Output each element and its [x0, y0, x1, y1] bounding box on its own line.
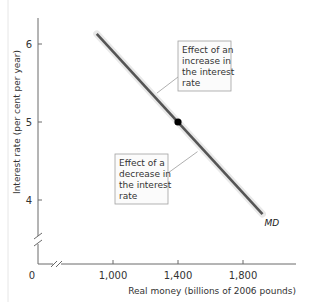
annotation-text-increase: Effect of an: [182, 45, 234, 55]
origin-label: 0: [29, 270, 35, 281]
y-axis-title: Interest rate (per cent per year): [12, 50, 22, 194]
annotation-text-decrease: rate: [119, 191, 138, 201]
y-tick-label: 5: [26, 117, 32, 128]
annotation-text-decrease: Effect of a: [119, 158, 165, 168]
annotation-text-increase: rate: [182, 78, 201, 88]
x-axis-title: Real money (billions of 2006 pounds): [128, 286, 296, 296]
annotation-text-increase: the interest: [182, 67, 235, 77]
y-tick-label: 4: [26, 195, 32, 206]
money-demand-chart: 1,0001,4001,800456 MD Effect of anincrea…: [0, 0, 310, 302]
x-tick-label: 1,800: [229, 270, 258, 281]
y-tick-label: 6: [26, 39, 32, 50]
annotation-text-decrease: decrease in: [119, 169, 171, 179]
x-tick-label: 1,400: [164, 270, 193, 281]
annotation-text-increase: increase in: [182, 56, 231, 66]
annotation-text-decrease: the interest: [119, 180, 172, 190]
x-tick-label: 1,000: [99, 270, 128, 281]
annotation-leader-increase: [157, 77, 178, 93]
equilibrium-point: [174, 118, 181, 125]
series-label-md: MD: [265, 218, 280, 228]
axes: [34, 18, 296, 267]
annotation-leader-decrease: [168, 152, 198, 173]
